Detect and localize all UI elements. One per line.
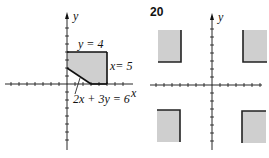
figure-canvas: y x y = 4 x= 5 2x + 3y = 6 20 — [0, 0, 269, 158]
left-figure: y x y = 4 x= 5 2x + 3y = 6 — [5, 9, 137, 150]
region-quadrant-1 — [243, 30, 267, 62]
region-quadrant-4 — [242, 111, 266, 143]
y-axis-label: y — [217, 10, 224, 24]
y-axis-arrow-icon — [210, 13, 214, 20]
region-quadrant-2 — [158, 30, 181, 62]
region-quadrant-3 — [157, 110, 180, 142]
label-x-eq-5: x= 5 — [109, 59, 132, 73]
right-figure: 20 y — [150, 5, 267, 150]
y-axis-label: y — [72, 9, 79, 23]
y-axis-arrow-icon — [65, 12, 69, 19]
x-axis-label: x — [130, 86, 137, 100]
figure-number: 20 — [150, 5, 164, 19]
label-y-eq-4: y = 4 — [77, 37, 103, 51]
feasible-region — [67, 52, 107, 84]
label-2x-3y-eq-6: 2x + 3y = 6 — [73, 92, 130, 106]
